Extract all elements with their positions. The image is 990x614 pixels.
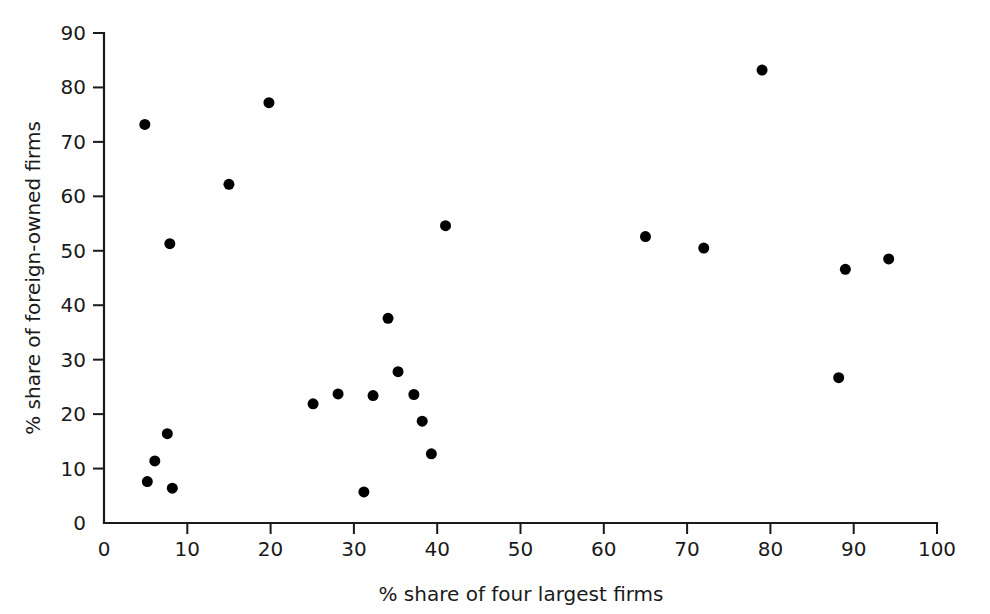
data-points-layer [139,65,894,498]
data-point [142,476,153,487]
data-point [840,264,851,275]
data-point [833,372,844,383]
x-axis-tick-label: 0 [98,537,111,561]
data-point [883,253,894,264]
data-point [308,398,319,409]
x-axis-tick-label: 20 [258,537,283,561]
data-point [333,388,344,399]
data-point [358,486,369,497]
scatter-plot-svg: 0102030405060708090 01020304050607080901… [0,0,990,614]
x-axis-tick-label: 70 [674,537,699,561]
data-point [167,483,178,494]
y-axis-tick-label: 90 [61,21,86,45]
x-axis-tick-label: 100 [918,537,956,561]
y-axis-tick-label: 60 [61,184,86,208]
data-point [757,65,768,76]
y-axis-tick-label: 50 [61,239,86,263]
data-point [162,428,173,439]
data-point [263,97,274,108]
data-point [640,231,651,242]
x-axis-tick-label: 40 [424,537,449,561]
y-axis-tick-label: 70 [61,130,86,154]
data-point [698,243,709,254]
data-point [393,366,404,377]
y-axis-tick-label: 10 [61,457,86,481]
data-point [417,416,428,427]
data-point [408,389,419,400]
y-axis: 0102030405060708090 [61,21,104,535]
x-axis-tick-label: 10 [175,537,200,561]
y-axis-tick-label: 0 [73,511,86,535]
x-axis: 0102030405060708090100 [98,523,956,561]
data-point [383,313,394,324]
scatter-chart-figure: 0102030405060708090 01020304050607080901… [0,0,990,614]
y-axis-title: % share of foreign-owned firms [21,121,45,435]
data-point [440,220,451,231]
data-point [149,455,160,466]
data-point [139,119,150,130]
y-axis-tick-label: 40 [61,293,86,317]
data-point [368,390,379,401]
x-axis-tick-label: 80 [758,537,783,561]
y-axis-tick-label: 20 [61,402,86,426]
data-point [426,448,437,459]
data-point [164,238,175,249]
data-point [223,179,234,190]
x-axis-tick-label: 30 [341,537,366,561]
x-axis-tick-label: 90 [841,537,866,561]
x-axis-tick-label: 50 [508,537,533,561]
x-axis-title: % share of four largest firms [379,582,664,606]
y-axis-tick-label: 80 [61,75,86,99]
y-axis-tick-label: 30 [61,348,86,372]
x-axis-tick-label: 60 [591,537,616,561]
